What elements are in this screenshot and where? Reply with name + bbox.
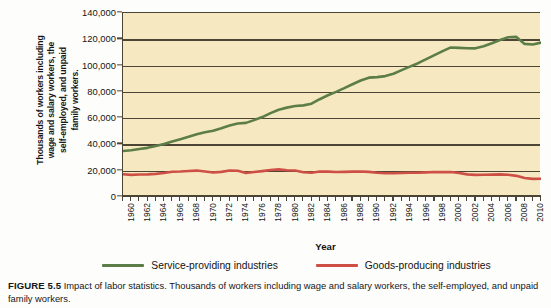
legend-label-service: Service-providing industries [151,260,277,271]
plot-area [122,12,540,196]
x-axis-tick-label: 1962 [142,203,152,222]
x-axis-tick-label: 1974 [240,203,250,222]
x-axis-tick-label: 1966 [175,203,185,222]
chart-lines [123,13,541,197]
x-axis-tick-label: 1968 [191,203,201,222]
x-axis-tick-label: 2004 [486,203,496,222]
x-axis-tick-label: 1972 [224,203,234,222]
line-goods-producing [123,169,541,178]
figure-container: Thousands of workers including wage and … [0,0,551,308]
x-axis-tick-label: 1986 [339,203,349,222]
figure-caption: FIGURE 5.5 Impact of labor statistics. T… [8,280,546,305]
x-axis-tick-label: 2000 [453,203,463,222]
x-axis-tick-label: 1992 [388,203,398,222]
x-axis-tick-label: 2006 [503,203,513,222]
x-axis-tick-label: 2008 [519,203,529,222]
x-axis-tick-label: 1960 [126,203,136,222]
x-axis-tick-label: 1980 [290,203,300,222]
x-axis-title: Year [0,241,551,252]
y-axis-title-line-3: self-employed, and unpaid [58,47,70,153]
y-axis-title-line-4: family workers. [70,69,82,130]
x-axis-tick-label: 1996 [421,203,431,222]
x-axis-tick-label: 1970 [208,203,218,222]
x-axis-tick-label: 1984 [322,203,332,222]
x-axis-tick-label: 1976 [257,203,267,222]
legend-item-goods: Goods-producing industries [316,260,491,271]
y-axis-title-line-1: Thousands of workers including [35,35,47,164]
x-axis-tick-label: 1998 [437,203,447,222]
x-axis-tick-label: 1982 [306,203,316,222]
x-axis-tick-label: 1990 [371,203,381,222]
x-axis-tick-label: 1994 [404,203,414,222]
x-axis-tick-label: 1988 [355,203,365,222]
y-axis-title-line-2: wage and salary workers, the [46,42,58,159]
chart-legend: Service-providing industries Goods-produ… [0,260,551,271]
x-axis-tick-label: 2010 [535,203,545,222]
line-service-providing [123,37,541,151]
legend-item-service: Service-providing industries [102,260,277,271]
x-axis-line [122,195,541,197]
legend-swatch-goods [316,264,358,267]
figure-number: FIGURE 5.5 [8,280,61,291]
x-axis-tick-label: 2002 [470,203,480,222]
x-axis-tick-label: 1978 [273,203,283,222]
y-axis-title: Thousands of workers including wage and … [30,5,86,195]
legend-label-goods: Goods-producing industries [365,260,491,271]
figure-caption-text: Impact of labor statistics. Thousands of… [8,280,538,304]
x-axis-tick-label: 1964 [158,203,168,222]
legend-swatch-service [102,264,144,267]
